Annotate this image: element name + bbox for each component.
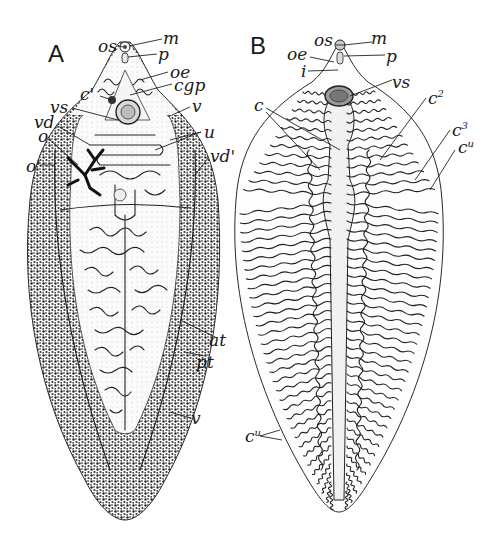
label-a-u: u — [204, 122, 215, 142]
label-b-c: c — [254, 95, 264, 115]
specimen-b-pharynx — [337, 52, 343, 64]
label-b-m: m — [371, 28, 387, 48]
label-a-cgp: cgp — [174, 75, 205, 95]
label-b-os: os — [314, 30, 333, 50]
label-a-pt: pt — [196, 352, 214, 372]
specimen-b — [235, 40, 444, 512]
label-a-c-prime: c' — [80, 84, 94, 104]
specimen-a — [0, 0, 250, 550]
panel-label-a: A — [48, 40, 64, 67]
label-a-v-top: v — [192, 96, 202, 116]
label-b-cu-right: cu — [458, 137, 474, 157]
label-a-o-prime: o' — [26, 156, 41, 176]
label-b-vs: vs — [392, 72, 411, 92]
label-a-vd-prime: vd' — [210, 146, 235, 166]
label-b-cu-left: cu — [245, 426, 261, 446]
label-a-v-bottom: v — [191, 408, 201, 428]
label-a-os: os — [98, 36, 117, 56]
specimen-a-pharynx — [122, 53, 128, 63]
label-b-i: i — [301, 61, 306, 81]
label-a-p: p — [158, 44, 169, 64]
label-a-o: o — [38, 126, 48, 146]
label-b-p: p — [386, 46, 397, 66]
label-a-at: at — [209, 330, 226, 350]
panel-label-b: B — [250, 32, 266, 59]
label-b-c2: c2 — [428, 88, 444, 108]
figure: A B os m — [0, 0, 498, 550]
